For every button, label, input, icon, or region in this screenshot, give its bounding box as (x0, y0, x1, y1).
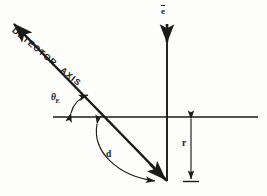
electron-symbol: e (161, 5, 165, 16)
electron-beam-label: e (161, 5, 165, 16)
figure-canvas: DETECTORAXIS θE e d r (0, 0, 267, 196)
theta-subscript: E (55, 97, 59, 104)
theta-e-angle-label: θE (51, 93, 60, 104)
detector-axis-vertex-arrow (150, 164, 166, 180)
radius-r-label: r (182, 139, 186, 149)
diagram-vector-layer (0, 0, 267, 196)
distance-d-label: d (106, 150, 111, 160)
